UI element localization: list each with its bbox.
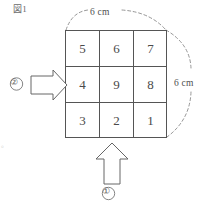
grid-cell-r2c1: 4 [66, 78, 100, 91]
arrow-right-icon [31, 70, 67, 100]
grid-cell-r2c2: 9 [100, 78, 134, 91]
dimension-arc-top-left [66, 10, 88, 30]
grid-cell-r2c3: 8 [134, 78, 168, 91]
grid-cell-r1c3: 7 [134, 42, 168, 55]
grid-cell-r1c2: 6 [100, 42, 134, 55]
marker-one-label: ① [102, 187, 110, 196]
arrow-up-icon [96, 143, 128, 184]
grid-cell-r3c2: 2 [100, 114, 134, 127]
dimension-label-right: 6 cm [174, 79, 194, 89]
figure-container: 図1 6 cm 6 cm 5 6 7 4 9 8 3 2 1 ② ① 。 [0, 0, 202, 211]
grid-cell-r3c3: 1 [134, 114, 168, 127]
dimension-arc-top-right [122, 10, 166, 30]
dimension-arc-right-lower [167, 92, 191, 137]
dimension-arc-right-upper [166, 30, 191, 68]
dimension-label-top: 6 cm [90, 8, 110, 18]
marker-two-label: ② [10, 78, 18, 87]
stray-punctuation-artifact: 。 [1, 142, 8, 149]
figure-caption: 図1 [13, 5, 27, 14]
figure-diagram [0, 0, 202, 211]
grid-cell-r3c1: 3 [66, 114, 100, 127]
grid-cell-r1c1: 5 [66, 42, 100, 55]
